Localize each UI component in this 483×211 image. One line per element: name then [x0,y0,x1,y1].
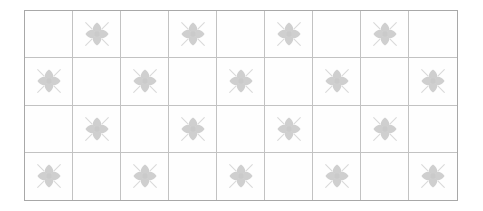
tile-cell-flower [313,153,361,200]
flower-motif-icon [224,159,258,193]
flower-ray-2 [373,23,379,29]
tile-cell-blank [121,106,169,153]
flower-ray-1 [229,181,235,187]
flower-ray-0 [198,134,204,140]
flower-center-dot [190,32,195,37]
flower-ray-3 [150,70,156,76]
flower-ray-1 [181,39,187,45]
flower-motif-icon [272,17,306,51]
flower-petal-west [277,30,287,39]
flower-petal-west [181,124,191,133]
tile-cell-blank [169,153,217,200]
flower-ray-0 [150,181,156,187]
flower-center-dot [286,126,291,131]
tile-cell-flower [217,58,265,105]
flower-ray-0 [150,86,156,92]
flower-ray-2 [229,165,235,171]
tile-grid [24,10,458,201]
flower-motif-icon [80,17,114,51]
flower-ray-2 [277,117,283,123]
flower-ray-2 [181,117,187,123]
flower-ray-3 [294,23,300,29]
tile-cell-flower [169,106,217,153]
tile-cell-blank [409,106,457,153]
flower-ray-1 [373,134,379,140]
flower-petal-west [325,77,335,86]
flower-petal-west [229,77,239,86]
flower-ray-3 [390,23,396,29]
tile-row [25,153,457,200]
tile-cell-flower [313,58,361,105]
flower-center-dot [238,79,243,84]
tile-cell-flower [73,11,121,58]
flower-ray-3 [342,70,348,76]
flower-center-dot [238,174,243,179]
flower-center-dot [46,79,51,84]
flower-center-dot [334,79,339,84]
flower-ray-0 [390,134,396,140]
flower-petal-west [37,77,47,86]
flower-ray-1 [229,86,235,92]
tile-cell-blank [361,58,409,105]
flower-ray-2 [37,165,43,171]
flower-ray-2 [422,165,428,171]
flower-ray-0 [438,181,444,187]
tile-cell-blank [409,11,457,58]
flower-motif-icon [368,112,402,146]
flower-ray-3 [150,165,156,171]
flower-ray-2 [181,23,187,29]
tile-cell-flower [25,58,73,105]
tile-cell-flower [73,106,121,153]
tile-cell-blank [313,11,361,58]
flower-center-dot [94,32,99,37]
flower-ray-0 [246,86,252,92]
flower-ray-0 [246,181,252,187]
flower-ray-2 [373,117,379,123]
flower-center-dot [431,79,436,84]
tile-row [25,58,457,105]
flower-ray-1 [373,39,379,45]
tile-cell-blank [265,58,313,105]
flower-center-dot [431,174,436,179]
flower-ray-3 [102,117,108,123]
flower-ray-1 [85,39,91,45]
flower-ray-0 [294,134,300,140]
flower-ray-0 [294,39,300,45]
flower-motif-icon [224,64,258,98]
flower-ray-3 [246,70,252,76]
flower-ray-3 [198,23,204,29]
tile-cell-flower [361,106,409,153]
flower-petal-west [229,172,239,181]
flower-ray-3 [246,165,252,171]
flower-ray-0 [198,39,204,45]
tile-cell-flower [25,153,73,200]
flower-ray-0 [102,39,108,45]
flower-ray-0 [54,86,60,92]
flower-ray-3 [438,165,444,171]
flower-petal-west [277,124,287,133]
tile-cell-blank [169,58,217,105]
flower-motif-icon [176,17,210,51]
tile-cell-blank [313,106,361,153]
tile-cell-blank [217,106,265,153]
flower-motif-icon [416,159,450,193]
tile-cell-blank [217,11,265,58]
flower-petal-west [325,172,335,181]
flower-motif-icon [416,64,450,98]
flower-center-dot [382,126,387,131]
flower-petal-west [421,172,431,181]
flower-ray-3 [342,165,348,171]
flower-ray-2 [133,165,139,171]
flower-petal-west [37,172,47,181]
flower-ray-2 [325,165,331,171]
tile-cell-blank [73,153,121,200]
flower-ray-3 [54,165,60,171]
flower-ray-1 [277,134,283,140]
flower-ray-1 [37,181,43,187]
flower-ray-1 [85,134,91,140]
flower-ray-1 [325,86,331,92]
flower-petal-west [133,77,143,86]
tile-cell-flower [121,153,169,200]
flower-petal-west [85,30,95,39]
tile-row [25,11,457,58]
